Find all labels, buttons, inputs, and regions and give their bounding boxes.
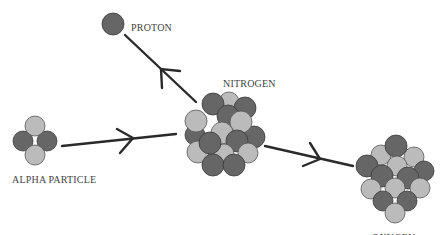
alpha-particle-label: ALPHA PARTICLE <box>12 174 96 185</box>
proton-label: PROTON <box>131 22 172 33</box>
arrow-to-proton <box>125 35 196 102</box>
alpha-particle <box>13 116 57 165</box>
proton-particle <box>102 13 124 35</box>
diagram-canvas: PROTON NITROGEN ALPHA PARTICLE <box>0 0 444 235</box>
nitrogen-label: NITROGEN <box>223 78 276 89</box>
nitrogen-nucleus <box>185 92 265 176</box>
arrow-to-oxygen <box>265 143 353 166</box>
arrow-alpha-to-nitrogen <box>62 129 176 153</box>
oxygen-nucleus <box>356 135 434 223</box>
oxygen-label: OXYGEN <box>372 232 415 235</box>
transmutation-diagram: PROTON NITROGEN ALPHA PARTICLE <box>0 0 444 235</box>
